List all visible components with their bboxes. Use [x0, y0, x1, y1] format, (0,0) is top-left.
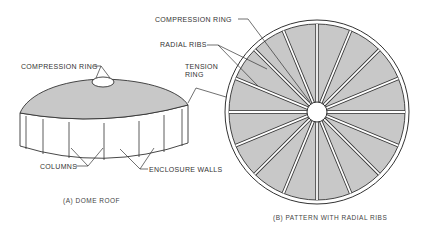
tension-ring-leader [188, 88, 226, 103]
label-tension-ring-2: RING [185, 71, 204, 79]
diagram-canvas [0, 0, 423, 230]
dome-compression-ring [92, 77, 114, 87]
label-compression-ring-a: COMPRESSION RING [21, 63, 98, 71]
label-columns: COLUMNS [40, 163, 77, 171]
label-compression-ring-b: COMPRESSION RING [155, 16, 232, 24]
label-radial-ribs: RADIAL RIBS [160, 41, 207, 49]
center-compression-ring [307, 102, 327, 122]
label-enclosure-walls: ENCLOSURE WALLS [149, 166, 222, 174]
label-tension-ring-1: TENSION [185, 63, 218, 71]
caption-a: (A) DOME ROOF [63, 197, 120, 204]
radial-rib-figure [188, 19, 409, 204]
dome-roof-figure [20, 66, 188, 169]
caption-b: (B) PATTERN WITH RADIAL RIBS [273, 214, 387, 221]
